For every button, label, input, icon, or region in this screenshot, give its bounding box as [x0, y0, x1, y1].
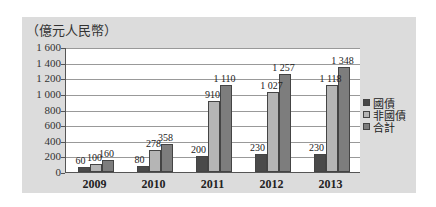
data-label: 910 [205, 89, 220, 100]
y-tick-label: 1 400 [36, 57, 61, 69]
bar-國債-2009 [78, 167, 90, 172]
y-tick-label: 1 600 [36, 41, 61, 53]
bar-非國債-2011 [208, 101, 220, 172]
data-label: 230 [309, 142, 324, 153]
x-tick-label: 2011 [201, 177, 224, 192]
data-label: 1 118 [319, 73, 341, 84]
bar-合計-2010 [161, 144, 173, 172]
bar-非國債-2010 [149, 150, 161, 172]
x-tick-label: 2012 [260, 177, 284, 192]
data-label: 1 348 [331, 55, 354, 66]
data-label: 80 [135, 154, 145, 165]
bar-國債-2010 [137, 166, 149, 172]
bar-國債-2011 [196, 156, 208, 172]
y-tick-label: 200 [45, 150, 62, 162]
x-tick-label: 2009 [83, 177, 107, 192]
y-tick-mark [61, 173, 65, 174]
data-label: 200 [191, 144, 206, 155]
data-label: 1 027 [260, 80, 283, 91]
y-tick-label: 1 200 [36, 72, 61, 84]
y-tick-label: 1 000 [36, 88, 61, 100]
data-label: 60 [76, 155, 86, 166]
bar-非國債-2009 [90, 164, 102, 172]
gridline [66, 64, 360, 65]
legend-swatch-icon [363, 111, 370, 118]
data-label: 1 257 [272, 62, 295, 73]
legend: 國債非國債合計 [363, 97, 406, 133]
bar-非國債-2012 [267, 92, 279, 172]
gridline [66, 48, 360, 49]
data-label: 160 [99, 148, 114, 159]
x-tick-label: 2013 [319, 177, 343, 192]
y-axis-unit-label: （億元人民幣） [26, 20, 117, 39]
data-label: 230 [250, 142, 265, 153]
bar-非國債-2013 [326, 85, 338, 172]
legend-swatch-icon [363, 123, 370, 130]
data-label: 1 110 [213, 73, 235, 84]
legend-item: 合計 [363, 121, 406, 132]
y-tick-label: 0 [56, 166, 62, 178]
bar-國債-2013 [314, 154, 326, 172]
legend-label: 合計 [373, 119, 395, 135]
bar-國債-2012 [255, 154, 267, 172]
y-tick-label: 400 [45, 135, 62, 147]
bar-合計-2011 [220, 85, 232, 172]
legend-swatch-icon [363, 99, 370, 106]
bar-合計-2009 [102, 160, 114, 173]
data-label: 358 [158, 132, 173, 143]
y-tick-label: 600 [45, 119, 62, 131]
y-tick-label: 800 [45, 104, 62, 116]
x-tick-label: 2010 [142, 177, 166, 192]
